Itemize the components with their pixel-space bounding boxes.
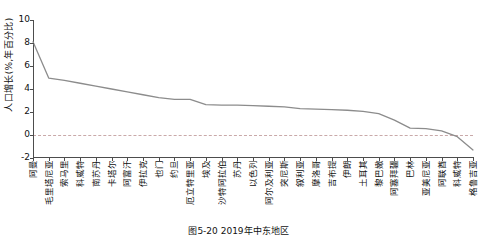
x-category-label: 阿尔及利亚 [265,160,274,232]
x-category-label: 摩洛哥 [312,160,321,232]
x-category-label: 埃及 [202,160,211,232]
y-axis-title: 人口增长(%,年百分比) [2,5,15,125]
x-category-label: 突尼斯 [280,160,289,232]
x-category-label: 巴林 [406,160,415,232]
x-category-label: 格鲁吉亚 [469,160,478,232]
figure-caption: 图5-20 2019年中东地区 [0,224,477,237]
y-axis-tick-labels: 1086420-2 [14,0,30,170]
plot-frame [33,20,473,158]
x-category-label: 毛里塔尼亚 [45,160,54,232]
y-tick-mark [30,112,34,113]
y-tick-label: 8 [16,38,30,47]
y-tick-label: 0 [16,130,30,139]
x-category-label: 黎巴嫩 [375,160,384,232]
x-category-label: 科威特 [76,160,85,232]
y-tick-mark [30,89,34,90]
x-category-label: 阿塞拜疆 [390,160,399,232]
x-category-label: 亚美尼亚 [422,160,431,232]
x-category-label: 卡塔尔 [108,160,117,232]
y-tick-mark [30,135,34,136]
x-category-label: 阿曼 [29,160,38,232]
x-category-label: 索马里 [60,160,69,232]
y-tick-mark [30,20,34,21]
x-category-label: 阿联酋 [438,160,447,232]
x-category-label: 科威特 [453,160,462,232]
x-category-label: 约旦 [170,160,179,232]
x-category-label: 伊朗 [343,160,352,232]
x-category-label: 土耳其 [359,160,368,232]
x-category-label: 吉布提 [328,160,337,232]
line-series [33,20,473,158]
y-tick-label: 6 [16,61,30,70]
x-category-label: 南苏丹 [92,160,101,232]
x-category-label: 以色列 [249,160,258,232]
x-category-label: 厄立特里亚 [186,160,195,232]
y-tick-label: 4 [16,84,30,93]
x-category-label: 阿富汗 [123,160,132,232]
y-tick-label: 2 [16,107,30,116]
x-category-label: 叙利亚 [296,160,305,232]
x-category-label: 沙特阿拉伯 [218,160,227,232]
series-line [33,42,473,150]
y-tick-mark [30,66,34,67]
x-category-label: 也门 [155,160,164,232]
plot-area [33,20,473,158]
y-tick-label: 10 [16,15,30,24]
x-axis-category-labels: 阿曼毛里塔尼亚索马里科威特南苏丹卡塔尔阿富汗伊拉克也门约旦厄立特里亚埃及沙特阿拉… [33,160,473,233]
x-category-label: 苏丹 [233,160,242,232]
y-tick-mark [30,43,34,44]
x-category-label: 伊拉克 [139,160,148,232]
